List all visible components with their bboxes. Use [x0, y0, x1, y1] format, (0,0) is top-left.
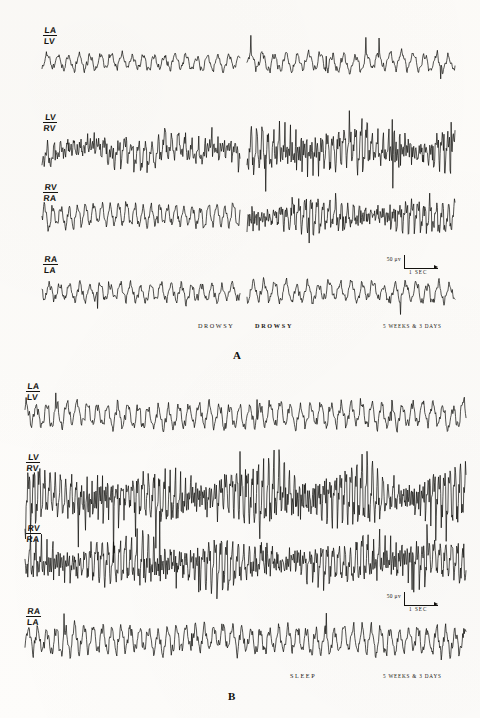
calibration-amplitude-label: 50 μv [387, 593, 401, 599]
lead-label-ra-la: RALA [25, 607, 42, 626]
panel-b: LALVLVRVRVRARALA50 μv1 SECSLEEP5 WEEKS &… [0, 0, 480, 718]
lead-label-la-lv: LALV [25, 382, 41, 401]
trace-polyline [25, 450, 466, 563]
figure-page: LALVLVRVRVRARALA50 μv1 SECDROWSYDROWSY5 … [0, 0, 480, 718]
lead-denominator: RA [25, 534, 41, 543]
lead-denominator: LA [25, 617, 41, 626]
annotation-sleep: SLEEP [290, 672, 316, 679]
calibration-arrow-icon [434, 602, 438, 606]
annotation-5-weeks-3-days: 5 WEEKS & 3 DAYS [383, 673, 442, 679]
eeg-trace-b-rvra-seg1 [0, 0, 480, 718]
trace-polyline [25, 511, 466, 599]
eeg-trace-b-rala-seg1 [0, 0, 480, 718]
lead-denominator: LV [25, 392, 40, 401]
lead-numerator: RA [26, 607, 42, 617]
lead-label-rv-ra: RVRA [25, 524, 42, 543]
eeg-trace-b-lvrv-seg1 [0, 0, 480, 718]
panel-letter-b: B [228, 690, 236, 702]
lead-label-lv-rv: LVRV [25, 453, 41, 472]
trace-polyline [25, 613, 466, 660]
calibration-time-label: 1 SEC [409, 606, 427, 612]
lead-denominator: RV [25, 463, 40, 472]
lead-numerator: LA [26, 382, 41, 392]
lead-numerator: RV [26, 524, 42, 534]
eeg-trace-b-lalv-seg1 [0, 0, 480, 718]
lead-numerator: LV [26, 453, 41, 463]
calibration-amplitude-bar [404, 592, 405, 605]
trace-polyline [25, 393, 466, 432]
